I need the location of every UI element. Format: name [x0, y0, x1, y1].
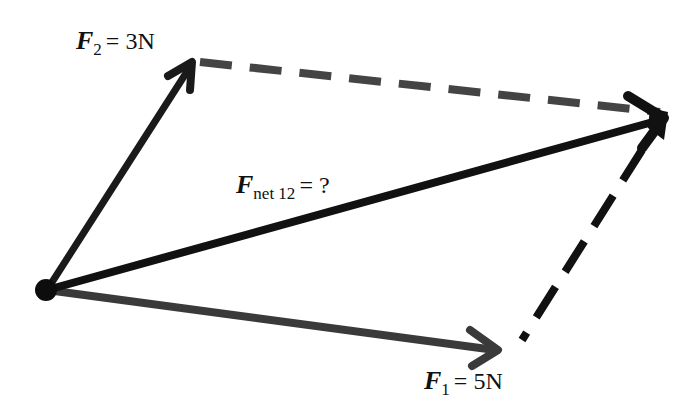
label-f1: F1= 5N	[424, 368, 503, 394]
label-f2-subscript: 2	[93, 40, 102, 59]
vector-f1	[47, 290, 498, 366]
force-diagram: F2= 3N Fnet 12= ? F1= 5N	[0, 0, 699, 405]
label-fnet-subscript: net 12	[253, 184, 295, 203]
label-fnet: Fnet 12= ?	[236, 172, 330, 198]
label-f2: F2= 3N	[76, 28, 155, 54]
vector-drawing	[0, 0, 699, 405]
origin-point	[35, 279, 57, 301]
label-f2-symbol: F	[76, 26, 93, 55]
dashed-line-right	[522, 150, 642, 340]
dashed-line-top	[200, 62, 660, 112]
label-f1-value: = 5N	[454, 368, 503, 394]
label-f1-symbol: F	[424, 366, 441, 395]
label-fnet-value: = ?	[299, 172, 329, 198]
label-f2-value: = 3N	[106, 28, 155, 54]
label-f1-subscript: 1	[441, 380, 450, 399]
label-fnet-symbol: F	[236, 170, 253, 199]
